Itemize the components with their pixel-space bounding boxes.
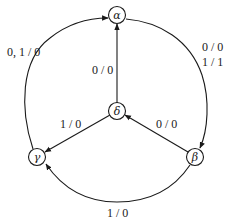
label-beta-to-gamma: 1 / 0 <box>107 206 128 220</box>
state-diagram: α δ γ β 0, 1 / 0 0 / 0 1 / 1 0 / 0 1 / 0… <box>0 0 232 224</box>
label-beta-to-delta: 0 / 0 <box>156 117 177 131</box>
node-gamma: γ <box>29 149 46 166</box>
node-beta: β <box>187 149 204 166</box>
label-gamma-to-alpha: 0, 1 / 0 <box>7 45 40 59</box>
edge-beta-to-gamma <box>46 164 190 202</box>
label-delta-to-alpha: 0 / 0 <box>92 63 113 77</box>
label-alpha-to-beta-line2: 1 / 1 <box>202 55 223 69</box>
node-delta-label: δ <box>114 105 121 118</box>
node-alpha-label: α <box>113 9 121 22</box>
label-alpha-to-beta-line1: 0 / 0 <box>202 40 223 54</box>
label-delta-to-gamma: 1 / 0 <box>60 117 81 131</box>
node-delta: δ <box>109 103 126 120</box>
node-alpha: α <box>109 7 126 24</box>
node-gamma-label: γ <box>34 151 41 164</box>
node-beta-label: β <box>191 151 198 164</box>
